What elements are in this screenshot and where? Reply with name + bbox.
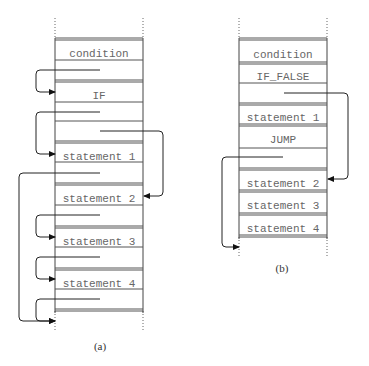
code-layout-diagram: conditionIFstatement 1statement 2stateme… (0, 0, 369, 366)
panel-caption: (a) (94, 340, 107, 353)
block-label: statement 2 (247, 178, 320, 190)
jump-arrow-right (36, 70, 100, 92)
block-label: statement 4 (247, 223, 320, 235)
block-label: IF (92, 90, 105, 102)
block-label: JUMP (270, 134, 297, 146)
jump-arrow-right (36, 299, 100, 321)
panel-a-if-chain: conditionIFstatement 1statement 2stateme… (19, 18, 163, 353)
jump-arrow-right (36, 112, 100, 154)
block-label: statement 3 (63, 236, 136, 248)
block-label: statement 1 (63, 151, 136, 163)
block-label: condition (253, 49, 312, 61)
block-label: IF_FALSE (257, 71, 310, 83)
block-label: statement 4 (63, 278, 136, 290)
block-label: statement 1 (247, 112, 320, 124)
block-label: statement 3 (247, 200, 320, 212)
panel-caption: (b) (276, 262, 289, 275)
block-label: condition (69, 48, 128, 60)
panel-b-if-false-jump: conditionIF_FALSEstatement 1JUMPstatemen… (222, 18, 348, 275)
block-label: statement 2 (63, 193, 136, 205)
